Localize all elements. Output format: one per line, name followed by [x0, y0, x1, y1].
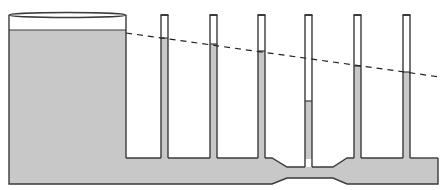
tube-cap: [258, 14, 266, 16]
venturi-diagram: [0, 0, 448, 190]
tube-cap: [354, 14, 362, 16]
tube-cap: [161, 14, 169, 16]
dashed-energy-line: [126, 33, 440, 77]
tube-water-column: [210, 44, 217, 159]
tube-water-column: [258, 51, 265, 159]
tube-water-column: [403, 72, 410, 159]
tube-cap: [305, 14, 313, 16]
tube-cap: [210, 14, 218, 16]
tube-water-column: [161, 38, 168, 159]
piezometer-tubes: [161, 14, 411, 167]
tank-rim: [9, 13, 126, 18]
water-fill: [9, 30, 438, 184]
tube-water-column: [305, 101, 312, 159]
energy-grade-line: [126, 33, 440, 77]
tube-water-column: [354, 66, 361, 159]
tube-cap: [403, 14, 411, 16]
pipe-water: [9, 30, 438, 184]
